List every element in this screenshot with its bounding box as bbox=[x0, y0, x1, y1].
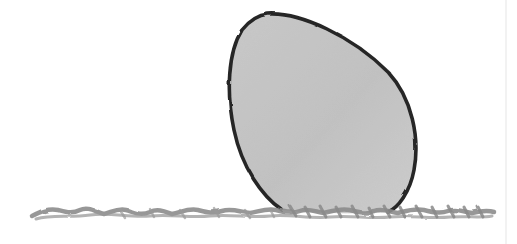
egg bbox=[229, 14, 416, 213]
egg-sketch bbox=[0, 0, 517, 244]
paper-edge bbox=[505, 0, 507, 244]
ground-scribble bbox=[32, 206, 494, 219]
